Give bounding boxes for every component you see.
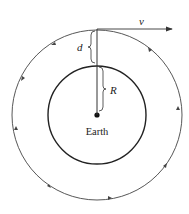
radius-label: R bbox=[109, 84, 117, 96]
orbit-diagram: v d R Earth bbox=[0, 0, 189, 214]
orbit-arrow-icon bbox=[21, 76, 25, 81]
earth-label: Earth bbox=[86, 126, 109, 137]
radius-brace bbox=[99, 67, 106, 111]
velocity-label: v bbox=[139, 15, 144, 27]
altitude-brace bbox=[88, 31, 95, 63]
orbit-arrow-icon bbox=[14, 126, 18, 130]
orbit-arrow-icon bbox=[176, 106, 180, 110]
altitude-label: d bbox=[77, 41, 83, 53]
